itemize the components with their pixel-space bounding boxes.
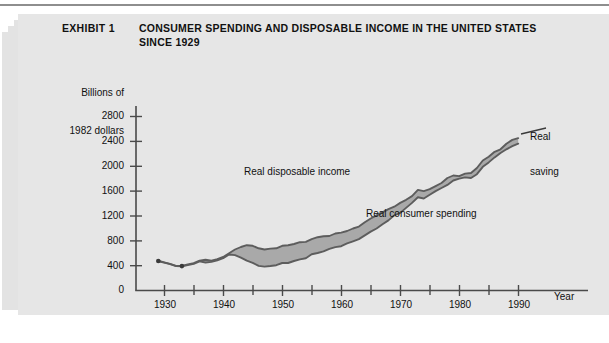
x-tick-label-1980: 1980 [444, 299, 476, 311]
x-tick-label-1940: 1940 [208, 299, 240, 311]
x-tick-label-1970: 1970 [385, 299, 417, 311]
y-tick-label-2800: 2800 [74, 110, 124, 122]
series-trough-marker [180, 264, 185, 269]
annotation-real-saving: Real saving [530, 108, 559, 200]
y-tick-label-400: 400 [74, 260, 124, 272]
real-consumer-spending-line [158, 144, 518, 267]
y-tick-label-800: 800 [74, 235, 124, 247]
annotation-real-saving-line2: saving [530, 166, 559, 178]
series-start-marker [156, 259, 161, 264]
chart-axes [130, 106, 588, 296]
x-tick-label-1930: 1930 [149, 299, 181, 311]
chart-data-band [156, 138, 518, 268]
x-tick-label-1950: 1950 [267, 299, 299, 311]
y-tick-label-0: 0 [74, 284, 124, 296]
exhibit-card: EXHIBIT 1 CONSUMER SPENDING AND DISPOSAB… [18, 14, 609, 315]
annotation-real-disposable-income: Real disposable income [244, 166, 350, 178]
annotation-real-consumer-spending: Real consumer spending [366, 208, 477, 220]
y-tick-label-1600: 1600 [74, 185, 124, 197]
annotation-real-saving-line1: Real [530, 131, 559, 143]
x-tick-label-1990: 1990 [503, 299, 535, 311]
top-rule [0, 4, 609, 6]
y-tick-label-2400: 2400 [74, 135, 124, 147]
y-axis-title-line1: Billions of [20, 87, 124, 100]
y-tick-label-2000: 2000 [74, 160, 124, 172]
x-axis-title: Year [554, 291, 574, 303]
x-tick-label-1960: 1960 [326, 299, 358, 311]
y-tick-label-1200: 1200 [74, 210, 124, 222]
